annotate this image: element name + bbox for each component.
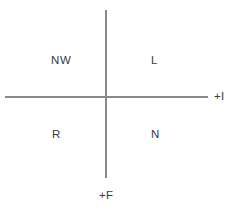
horizontal-axis-label: +I — [214, 90, 225, 102]
quadrant-label-lower-left: R — [52, 128, 61, 140]
quadrant-diagram: NW L R N +I +F — [0, 0, 244, 210]
quadrant-label-upper-right: L — [151, 54, 158, 66]
quadrant-label-upper-left: NW — [51, 54, 71, 66]
vertical-axis-line — [105, 10, 107, 178]
quadrant-label-lower-right: N — [151, 128, 160, 140]
vertical-axis-label: +F — [99, 189, 113, 201]
